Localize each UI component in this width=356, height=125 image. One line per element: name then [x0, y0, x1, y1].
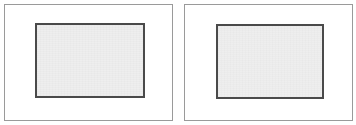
panel-right-inner-rectangle: [216, 24, 324, 99]
figure-canvas: [0, 0, 356, 125]
panel-left-inner-rectangle: [35, 23, 145, 98]
panel-left: [4, 4, 173, 121]
panel-right: [184, 4, 353, 121]
